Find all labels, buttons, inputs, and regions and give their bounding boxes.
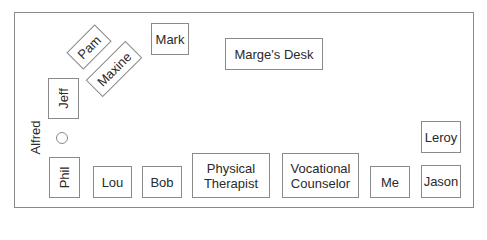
desk-me: Me — [370, 166, 410, 198]
desk-me-label: Me — [381, 175, 399, 190]
desk-jeff-label: Jeff — [56, 88, 71, 109]
alfred-label: Alfred — [28, 118, 43, 158]
desk-physical-therapist-line2: Therapist — [204, 176, 258, 191]
desk-jason: Jason — [421, 165, 461, 198]
desk-phil: Phil — [49, 157, 80, 198]
desk-leroy: Leroy — [421, 121, 461, 153]
desk-lou-label: Lou — [102, 175, 124, 190]
desk-mark-label: Mark — [156, 32, 185, 47]
desk-phil-label: Phil — [57, 167, 72, 189]
alfred-seat-marker — [56, 132, 68, 144]
desk-bob: Bob — [142, 166, 182, 198]
desk-vocational-counselor: Vocational Counselor — [282, 153, 359, 198]
desk-lou: Lou — [93, 166, 132, 198]
desk-vocational-counselor-line2: Counselor — [291, 176, 350, 191]
desk-marge: Marge's Desk — [225, 38, 323, 70]
desk-leroy-label: Leroy — [425, 130, 458, 145]
desk-marge-label: Marge's Desk — [234, 47, 313, 62]
desk-bob-label: Bob — [150, 175, 173, 190]
desk-vocational-counselor-line1: Vocational — [291, 161, 351, 176]
desk-physical-therapist-line1: Physical — [207, 161, 255, 176]
desk-physical-therapist: Physical Therapist — [192, 153, 270, 198]
desk-jason-label: Jason — [424, 174, 459, 189]
desk-jeff: Jeff — [48, 78, 79, 119]
desk-mark: Mark — [151, 23, 189, 55]
